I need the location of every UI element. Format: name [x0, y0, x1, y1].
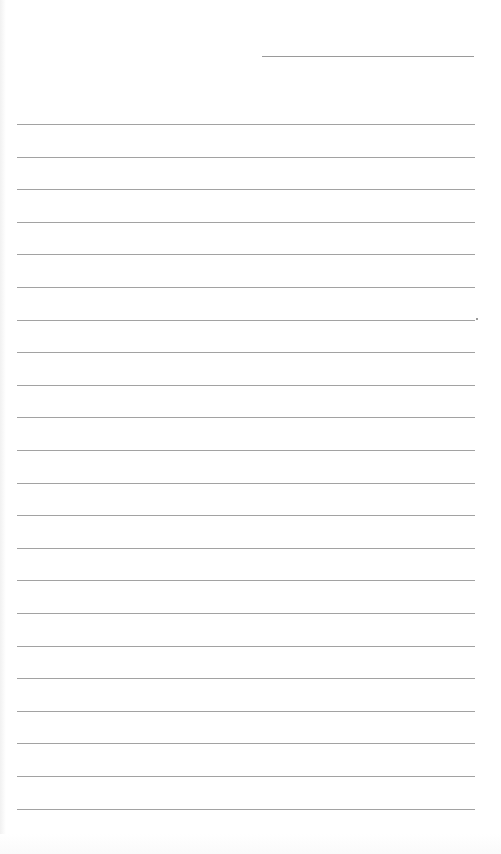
- lined-paper-page: [0, 0, 501, 854]
- ruled-line: [17, 157, 475, 158]
- ruled-line: [17, 646, 475, 647]
- ruled-line: [17, 613, 475, 614]
- ruled-line: [17, 124, 475, 125]
- ruled-line: [17, 320, 475, 321]
- ruled-line: [17, 189, 475, 190]
- ruled-line: [17, 222, 475, 223]
- page-bottom-shade: [0, 834, 501, 854]
- ruled-line: [17, 450, 475, 451]
- ruled-line: [17, 776, 475, 777]
- ruled-line: [17, 417, 475, 418]
- ruled-line: [17, 809, 475, 810]
- ruled-line: [17, 548, 475, 549]
- header-name-line: [262, 56, 474, 57]
- ruled-line: [17, 352, 475, 353]
- ruled-line: [17, 483, 475, 484]
- ruled-line: [17, 743, 475, 744]
- ruled-line: [17, 711, 475, 712]
- ruled-line: [17, 385, 475, 386]
- stray-mark: [476, 318, 478, 320]
- ruled-line: [17, 580, 475, 581]
- ruled-line: [17, 515, 475, 516]
- ruled-line: [17, 678, 475, 679]
- ruled-line: [17, 254, 475, 255]
- ruled-line: [17, 287, 475, 288]
- page-edge-shadow: [0, 0, 6, 854]
